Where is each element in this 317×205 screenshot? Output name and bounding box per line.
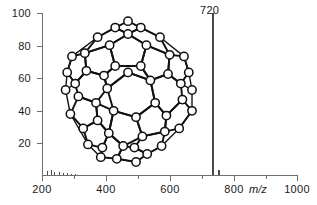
mass-spectrum-figure: 100 80 60 40 20 200 400 600 800 1000 m/z xyxy=(0,0,317,205)
peak-264 xyxy=(63,173,64,175)
peak-740 xyxy=(218,170,220,175)
peak-228 xyxy=(51,170,52,175)
base-peak-annotation: 720 xyxy=(200,5,219,16)
peak-218 xyxy=(47,171,48,175)
peak-720 xyxy=(212,13,214,175)
peak-238 xyxy=(54,172,55,175)
peak-252 xyxy=(59,172,60,175)
peak-276 xyxy=(67,173,68,175)
spectrum-peaks xyxy=(0,0,317,205)
peak-288 xyxy=(71,174,72,176)
peak-300 xyxy=(75,174,76,175)
